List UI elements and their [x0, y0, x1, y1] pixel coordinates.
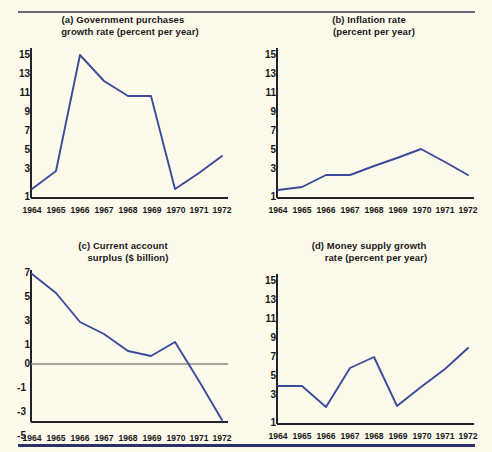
panel-c-xtick-1971: 1971: [187, 433, 211, 443]
panel-b-xtick-1972: 1972: [456, 205, 480, 215]
panel-a-title: (a) Government purchases growth rate (pe…: [0, 14, 246, 38]
panel-c-title-line2: surplus ($ billion): [0, 252, 246, 264]
panel-b-svg: [276, 48, 476, 200]
panel-a-xtick-1965: 1965: [44, 205, 68, 215]
panel-d-xtick-1971: 1971: [433, 431, 457, 441]
panel-d-title-line1: (d) Money supply growth: [312, 240, 427, 251]
panel-d: (d) Money supply growth rate (percent pe…: [246, 226, 492, 452]
panel-d-xtick-1970: 1970: [410, 431, 434, 441]
panel-c-xtick-1968: 1968: [116, 433, 140, 443]
panel-a-series-line: [32, 55, 222, 189]
panel-a-xtick-1972: 1972: [210, 205, 234, 215]
panel-d-xtick-1972: 1972: [456, 431, 480, 441]
panel-b-xtick-1970: 1970: [410, 205, 434, 215]
panel-a-plot: [30, 48, 230, 200]
panel-c-xtick-1972: 1972: [210, 433, 234, 443]
panel-b-xtick-1967: 1967: [338, 205, 362, 215]
panel-a-xtick-1967: 1967: [92, 205, 116, 215]
panel-a-ytick-9: 9: [8, 107, 30, 117]
panel-b-xtick-1966: 1966: [314, 205, 338, 215]
panel-d-ytick-7: 7: [254, 352, 276, 362]
panel-b-ytick-11: 11: [254, 88, 276, 98]
panel-d-ytick-11: 11: [254, 314, 276, 324]
panel-b-title-line2: (percent per year): [246, 26, 492, 38]
panel-a-axes: [31, 48, 228, 198]
panel-a-xtick-1966: 1966: [68, 205, 92, 215]
panel-c-title-line1: (c) Current account: [78, 240, 168, 251]
panel-b-xtick-1968: 1968: [362, 205, 386, 215]
panel-d-ytick-15: 15: [254, 276, 276, 286]
panel-a: (a) Government purchases growth rate (pe…: [0, 0, 246, 226]
panel-c-title: (c) Current account surplus ($ billion): [0, 240, 246, 264]
panel-c-svg: [30, 270, 230, 426]
panel-b: (b) Inflation rate (percent per year) 15…: [246, 0, 492, 226]
panel-d-title: (d) Money supply growth rate (percent pe…: [246, 240, 492, 264]
panel-b-xtick-1964: 1964: [266, 205, 290, 215]
panel-d-plot: [276, 274, 476, 426]
panel-b-title-line1: (b) Inflation rate: [332, 14, 406, 25]
panel-a-ytick-3: 3: [8, 164, 30, 174]
panel-d-xtick-1966: 1966: [314, 431, 338, 441]
panel-c-ytick-0: 0: [8, 359, 30, 369]
panel-b-ytick-13: 13: [254, 69, 276, 79]
panel-a-ytick-11: 11: [8, 88, 30, 98]
panel-d-ytick-9: 9: [254, 333, 276, 343]
panel-a-xtick-1968: 1968: [116, 205, 140, 215]
panel-a-svg: [30, 48, 230, 200]
panel-a-ytick-15: 15: [8, 50, 30, 60]
panel-c-xtick-1964: 1964: [20, 433, 44, 443]
panel-c-xtick-1966: 1966: [68, 433, 92, 443]
panel-d-ytick-1: 1: [254, 418, 276, 428]
panel-c-ytick-1: 1: [8, 340, 30, 350]
panel-c-series-line: [32, 274, 222, 420]
panel-d-axes: [277, 274, 474, 424]
panel-c-ytick-5: 5: [8, 292, 30, 302]
panel-a-xtick-1969: 1969: [140, 205, 164, 215]
panel-d-series-line: [278, 348, 468, 407]
panel-a-ytick-7: 7: [8, 126, 30, 136]
panel-a-ytick-13: 13: [8, 69, 30, 79]
panel-a-title-line2: growth rate (percent per year): [0, 26, 246, 38]
panel-d-ytick-5: 5: [254, 371, 276, 381]
panel-a-xtick-1971: 1971: [187, 205, 211, 215]
panel-d-ytick-13: 13: [254, 295, 276, 305]
panel-d-xtick-1965: 1965: [290, 431, 314, 441]
panel-b-xtick-1969: 1969: [386, 205, 410, 215]
panel-c-xtick-1969: 1969: [140, 433, 164, 443]
panel-c-xtick-1970: 1970: [164, 433, 188, 443]
panel-b-series-line: [278, 149, 468, 190]
panel-d-xtick-1964: 1964: [266, 431, 290, 441]
panel-a-title-line1: (a) Government purchases: [62, 14, 185, 25]
panel-c-axes: [31, 270, 228, 422]
panel-a-ytick-5: 5: [8, 145, 30, 155]
panel-b-ytick-15: 15: [254, 50, 276, 60]
panel-b-ytick-3: 3: [254, 164, 276, 174]
panel-d-xtick-1969: 1969: [386, 431, 410, 441]
panel-d-title-line2: rate (percent per year): [246, 252, 492, 264]
panel-b-ytick-9: 9: [254, 107, 276, 117]
panel-c-ytick-3: 3: [8, 316, 30, 326]
panel-c-ytick-neg1: -1: [4, 383, 26, 393]
panel-b-axes: [277, 48, 474, 198]
panel-c-ytick-neg3: -3: [4, 407, 26, 417]
panel-c-xtick-1965: 1965: [44, 433, 68, 443]
panel-d-svg: [276, 274, 476, 426]
panel-b-ytick-1: 1: [254, 192, 276, 202]
panel-b-xtick-1965: 1965: [290, 205, 314, 215]
panel-b-ytick-7: 7: [254, 126, 276, 136]
panel-c: (c) Current account surplus ($ billion) …: [0, 226, 246, 452]
panel-b-title: (b) Inflation rate (percent per year): [246, 14, 492, 38]
panel-b-plot: [276, 48, 476, 200]
panel-a-xtick-1970: 1970: [164, 205, 188, 215]
panel-c-ytick-7: 7: [8, 268, 30, 278]
panel-d-xtick-1968: 1968: [362, 431, 386, 441]
figure-four-panel-chart: (a) Government purchases growth rate (pe…: [0, 0, 492, 452]
panel-c-plot: [30, 270, 230, 426]
panel-c-xtick-1967: 1967: [92, 433, 116, 443]
panel-b-ytick-5: 5: [254, 145, 276, 155]
panel-a-xtick-1964: 1964: [20, 205, 44, 215]
panel-d-xtick-1967: 1967: [338, 431, 362, 441]
panel-d-ytick-3: 3: [254, 390, 276, 400]
panel-b-xtick-1971: 1971: [433, 205, 457, 215]
panel-a-ytick-1: 1: [8, 192, 30, 202]
